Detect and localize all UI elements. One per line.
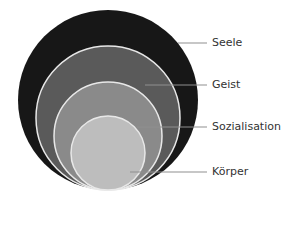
label-sozialisation: Sozialisation: [212, 121, 281, 133]
circle-koerper: [71, 116, 145, 190]
label-geist: Geist: [212, 79, 240, 91]
label-seele: Seele: [212, 37, 242, 49]
label-koerper: Körper: [212, 166, 248, 178]
